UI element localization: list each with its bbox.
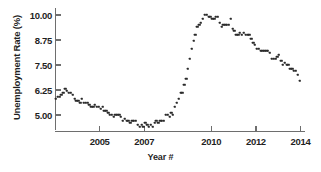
data-point (153, 122, 155, 124)
data-point (103, 110, 105, 112)
y-axis-tick-label: 8.75 (6, 35, 52, 46)
data-point (239, 32, 241, 34)
y-axis-tick (56, 64, 61, 65)
data-point (254, 44, 256, 46)
data-point (124, 118, 126, 120)
data-point (92, 106, 94, 108)
data-point (83, 102, 85, 104)
data-point (213, 18, 215, 20)
data-point (189, 58, 191, 60)
data-point (94, 104, 96, 106)
data-point (177, 98, 179, 100)
data-point (220, 26, 222, 28)
x-axis-tick-label: 2014 (281, 136, 321, 147)
y-axis-tick-label: 6.25 (6, 85, 52, 96)
data-point (204, 14, 206, 16)
data-point (166, 114, 168, 116)
data-point (71, 94, 73, 96)
data-point (191, 48, 193, 50)
y-axis-tick-label: 5.00 (6, 110, 52, 121)
data-point (196, 26, 198, 28)
data-point (90, 106, 92, 108)
x-axis-tick (300, 126, 301, 132)
data-point (285, 64, 287, 66)
data-point (79, 102, 81, 104)
data-point (228, 24, 230, 26)
data-point (237, 34, 239, 36)
data-point (129, 122, 131, 124)
data-point (226, 24, 228, 26)
data-point (172, 114, 174, 116)
data-point (150, 124, 152, 126)
data-point (298, 80, 300, 82)
data-point (70, 92, 72, 94)
data-point (269, 52, 271, 54)
data-point (58, 96, 60, 98)
data-point (235, 34, 237, 36)
data-point (261, 50, 263, 52)
y-axis-line (55, 8, 56, 130)
y-axis-tick (56, 114, 61, 115)
unemployment-rate-scatter-chart: Unemployment Rate (%) 5.006.257.508.7510… (0, 0, 321, 172)
data-point (174, 106, 176, 108)
data-point (170, 112, 172, 114)
data-point (137, 124, 139, 126)
data-point (207, 16, 209, 18)
data-point (283, 62, 285, 64)
data-point (276, 56, 278, 58)
y-axis-tick-labels: 5.006.257.508.7510.00 (0, 0, 52, 172)
data-point (133, 120, 135, 122)
y-axis-tick (56, 89, 61, 90)
data-point (131, 120, 133, 122)
data-point (215, 16, 217, 18)
data-point (209, 16, 211, 18)
data-point (187, 68, 189, 70)
data-point (122, 120, 124, 122)
x-axis-tick-label: 2007 (124, 136, 164, 147)
data-point (116, 114, 118, 116)
data-point (109, 114, 111, 116)
data-point (60, 94, 62, 96)
data-point (248, 34, 250, 36)
x-axis-title: Year # (0, 152, 321, 162)
y-axis-tick (56, 39, 61, 40)
data-point (168, 116, 170, 118)
x-axis-tick (144, 126, 145, 132)
data-point (272, 58, 274, 60)
data-point (297, 74, 299, 76)
x-axis-tick (211, 126, 212, 132)
data-point (287, 64, 289, 66)
data-point (96, 106, 98, 108)
data-point (258, 48, 260, 50)
data-point (202, 18, 204, 20)
data-point (205, 14, 207, 16)
data-point (252, 42, 254, 44)
data-point (66, 90, 68, 92)
data-point (138, 126, 140, 128)
data-point (194, 34, 196, 36)
data-point (271, 58, 273, 60)
data-point (291, 68, 293, 70)
data-point (161, 120, 163, 122)
data-point (155, 120, 157, 122)
data-point (267, 50, 269, 52)
data-point (233, 30, 235, 32)
x-axis-tick-label: 2010 (191, 136, 231, 147)
data-point (86, 102, 88, 104)
data-point (113, 116, 115, 118)
data-point (57, 96, 59, 98)
x-axis-tick-label: 2005 (80, 136, 120, 147)
data-point (107, 112, 109, 114)
data-point (179, 92, 181, 94)
data-point (230, 18, 232, 20)
data-point (265, 50, 267, 52)
data-point (118, 114, 120, 116)
data-point (198, 24, 200, 26)
data-point (181, 92, 183, 94)
y-axis-tick-label: 7.50 (6, 60, 52, 71)
data-point (263, 50, 265, 52)
data-point (280, 60, 282, 62)
data-point (110, 114, 112, 116)
data-point (224, 24, 226, 26)
data-point (152, 126, 154, 128)
